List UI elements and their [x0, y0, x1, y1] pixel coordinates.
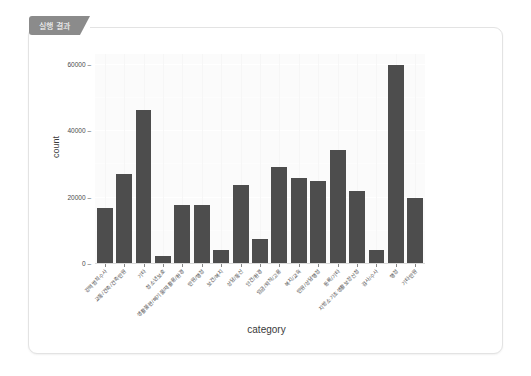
y-tick-label: 60000 –: [29, 60, 91, 67]
bar: [97, 208, 113, 263]
bar: [233, 185, 249, 263]
y-tick-label: 40000 –: [29, 127, 91, 134]
x-tick: [260, 264, 261, 267]
bar: [194, 205, 210, 263]
grid-line-vertical: [221, 54, 222, 263]
x-tick: [182, 264, 183, 267]
bar: [252, 239, 268, 263]
bar: [155, 256, 171, 263]
x-tick: [163, 264, 164, 267]
bar: [271, 167, 287, 263]
bar: [369, 250, 385, 263]
screen: count category 0 –20000 –40000 –60000 – …: [0, 0, 531, 376]
result-tab-notch: [80, 16, 90, 35]
grid-line-vertical: [163, 54, 164, 263]
x-tick: [241, 264, 242, 267]
x-tick: [202, 264, 203, 267]
x-tick: [221, 264, 222, 267]
result-tab-label[interactable]: 실행 결과: [29, 16, 80, 35]
bar: [407, 198, 423, 263]
x-tick: [299, 264, 300, 267]
y-axis-label: count: [51, 136, 61, 158]
x-tick: [415, 264, 416, 267]
x-tick: [357, 264, 358, 267]
x-tick: [318, 264, 319, 267]
x-tick: [144, 264, 145, 267]
x-tick: [124, 264, 125, 267]
bar: [136, 110, 152, 263]
chart-figure: count category 0 –20000 –40000 –60000 – …: [29, 28, 504, 355]
y-tick-label: 20000 –: [29, 193, 91, 200]
bar: [116, 174, 132, 263]
x-tick: [279, 264, 280, 267]
x-tick: [396, 264, 397, 267]
result-panel: count category 0 –20000 –40000 –60000 – …: [28, 27, 503, 354]
result-tab[interactable]: 실행 결과: [29, 16, 90, 35]
bar: [310, 181, 326, 263]
x-tick: [338, 264, 339, 267]
bar: [349, 191, 365, 263]
grid-line-vertical: [376, 54, 377, 263]
bar: [213, 250, 229, 263]
bar: [330, 150, 346, 263]
plot-panel: [95, 54, 425, 263]
x-tick: [105, 264, 106, 267]
bar: [174, 205, 190, 263]
x-tick: [376, 264, 377, 267]
bar: [388, 65, 404, 263]
bar: [291, 178, 307, 263]
grid-line-vertical: [260, 54, 261, 263]
y-tick-label: 0 –: [29, 260, 91, 267]
